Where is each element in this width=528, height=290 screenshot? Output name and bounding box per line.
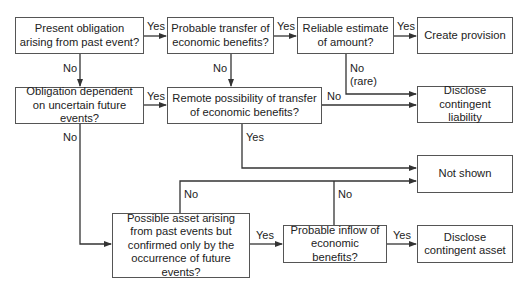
edge-label-yes: Yes	[147, 90, 165, 102]
edge-label-rare: (rare)	[350, 75, 377, 87]
node-label: Disclose contingent asset	[421, 231, 509, 258]
node-disclose-liability: Disclose contingent liability	[417, 86, 513, 123]
node-possible-asset: Possible asset arising from past events …	[112, 213, 250, 278]
node-label: Disclose contingent liability	[421, 84, 509, 125]
edge-label-yes: Yes	[246, 131, 264, 143]
node-label: Probable transfer of economic benefits?	[171, 22, 270, 49]
node-probable-transfer: Probable transfer of economic benefits?	[167, 17, 274, 54]
node-label: Possible asset arising from past events …	[116, 212, 246, 280]
edge-label-yes: Yes	[256, 229, 274, 241]
node-not-shown: Not shown	[417, 155, 513, 193]
node-label: Not shown	[439, 167, 492, 181]
edge-label-no: No	[63, 131, 77, 143]
node-disclose-asset: Disclose contingent asset	[417, 225, 513, 263]
edge-label-no: No	[184, 188, 198, 200]
edge-label-yes: Yes	[393, 229, 411, 241]
edge-label-yes: Yes	[397, 20, 415, 32]
node-probable-inflow: Probable inflow of economic benefits?	[283, 225, 387, 263]
edge-label-no: No	[350, 62, 364, 74]
edge-label-no: No	[63, 62, 77, 74]
node-reliable-estimate: Reliable estimate of amount?	[297, 17, 394, 54]
edge-label-no: No	[213, 62, 227, 74]
edge-label-yes: Yes	[147, 20, 165, 32]
node-label: Create provision	[424, 29, 505, 43]
node-label: Present obligation arising from past eve…	[19, 22, 140, 49]
node-label: Remote possibility of transfer of econom…	[171, 92, 318, 119]
edge-label-no: No	[338, 188, 352, 200]
node-remote-possibility: Remote possibility of transfer of econom…	[167, 87, 322, 124]
node-present-obligation: Present obligation arising from past eve…	[15, 17, 144, 54]
edge-label-yes: Yes	[277, 20, 295, 32]
node-obligation-dependent: Obligation dependent on uncertain future…	[15, 87, 144, 124]
edge-label-no: No	[327, 90, 341, 102]
node-label: Reliable estimate of amount?	[301, 22, 390, 49]
node-label: Probable inflow of economic benefits?	[287, 224, 383, 265]
node-create-provision: Create provision	[417, 17, 513, 54]
node-label: Obligation dependent on uncertain future…	[19, 85, 140, 126]
